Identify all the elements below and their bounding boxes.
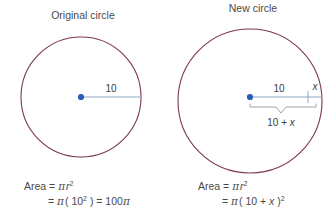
right-formula1-pi: π	[231, 180, 240, 192]
right-area-formula-line1: Area = πr2	[198, 180, 248, 192]
left-panel-title: Original circle	[51, 9, 115, 21]
new-radius-label: 10	[273, 83, 285, 94]
left-formula1-pi: π	[57, 180, 66, 192]
right-formula2-exp: 2	[281, 195, 285, 202]
left-area-formula-line2: = π( 102 ) = 100π	[48, 195, 131, 207]
new-center-dot	[247, 94, 253, 100]
total-radius-label: 10 + x	[267, 117, 296, 128]
svg-text:Area = πr2: Area = πr2	[198, 180, 248, 192]
left-panel: Original circle 10 Area = πr2 = π( 102 )…	[21, 9, 141, 207]
left-formula1-exp: 2	[70, 180, 74, 187]
right-formula1-exp: 2	[244, 180, 248, 187]
total-label-prefix: 10 +	[267, 117, 290, 128]
original-radius-label: 10	[105, 83, 117, 94]
new-extension-label: x	[312, 81, 319, 92]
left-area-formula-line1: Area = πr2	[24, 180, 74, 192]
left-formula2-close: ) = 100	[87, 195, 123, 207]
total-label-var: x	[289, 117, 296, 128]
two-circles-area-diagram: Original circle 10 Area = πr2 = π( 102 )…	[0, 0, 334, 221]
left-formula2-pi: π	[56, 195, 65, 207]
right-panel: New circle 10 x 10 + x Area = πr2 = π( 1…	[178, 2, 322, 207]
left-formula2-pi2: π	[122, 195, 131, 207]
right-panel-title: New circle	[229, 2, 278, 14]
new-circle-outline	[178, 29, 322, 173]
left-formula2-open: ( 10	[65, 195, 83, 207]
total-radius-brace	[250, 104, 316, 113]
right-area-formula-line2: = π( 10 + x )2	[222, 195, 285, 207]
right-formula1-prefix: Area =	[198, 180, 232, 192]
left-formula1-prefix: Area =	[24, 180, 58, 192]
right-formula2-pi: π	[230, 195, 239, 207]
original-center-dot	[78, 94, 84, 100]
right-formula2-eq: =	[222, 195, 231, 207]
svg-text:= π( 10 + x )2: = π( 10 + x )2	[222, 195, 285, 207]
right-formula2-open: ( 10 +	[239, 195, 269, 207]
svg-text:= π( 102 ) = 100π: = π( 102 ) = 100π	[48, 195, 131, 207]
svg-text:Area = πr2: Area = πr2	[24, 180, 74, 192]
left-formula2-eq: =	[48, 195, 57, 207]
